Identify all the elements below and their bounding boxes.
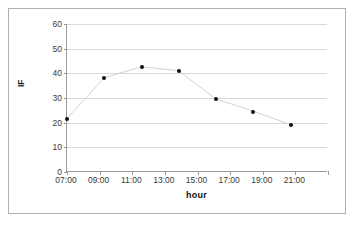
y-axis-tick-label: 60 — [53, 20, 62, 29]
y-axis-tick-label: 50 — [53, 45, 62, 54]
data-point-marker — [140, 65, 144, 69]
y-axis-tick-label: 40 — [53, 69, 62, 78]
data-point-marker — [177, 69, 181, 73]
x-axis-tick-label: 21:00 — [274, 175, 314, 185]
y-axis-tick-label: 20 — [53, 119, 62, 128]
x-axis-title: hour — [66, 190, 327, 200]
series-line — [67, 24, 327, 171]
y-axis-tick-labels: 60 50 40 30 20 10 0 — [38, 24, 62, 172]
data-point-marker — [65, 117, 69, 121]
chart-frame: IF 60 50 40 30 20 10 0 — [8, 8, 346, 214]
y-axis-title: IF — [16, 79, 26, 87]
plot-area — [66, 24, 327, 172]
y-axis-tick-label: 10 — [53, 143, 62, 152]
y-axis-tick-label: 30 — [53, 94, 62, 103]
x-axis-tick-mark — [328, 171, 329, 175]
data-point-marker — [289, 123, 293, 127]
x-axis-tick-labels: 07:00 09:00 11:00 13:00 15:00 17:00 19:0… — [66, 175, 327, 187]
